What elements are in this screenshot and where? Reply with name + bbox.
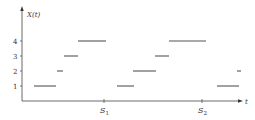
y-tick-label-4: 4: [13, 38, 18, 46]
x-tick-label-s2: S2: [198, 106, 207, 116]
x-axis-arrow-icon: [238, 99, 243, 102]
y-tick-label-2: 2: [13, 68, 17, 76]
y-axis-arrow-icon: [20, 6, 23, 11]
y-tick-label-1: 1: [13, 83, 17, 91]
y-axis-label: X(t): [26, 11, 41, 19]
y-ticks: 1 2 3 4: [13, 38, 22, 91]
step-chart: 1 2 3 4 S1 S2 X(t) t: [0, 0, 255, 120]
step-segments: [34, 41, 241, 86]
x-tick-label-s1: S1: [100, 106, 109, 116]
x-ticks: S1 S2: [100, 99, 207, 116]
y-tick-label-3: 3: [13, 53, 17, 61]
x-axis-label: t: [245, 98, 248, 106]
